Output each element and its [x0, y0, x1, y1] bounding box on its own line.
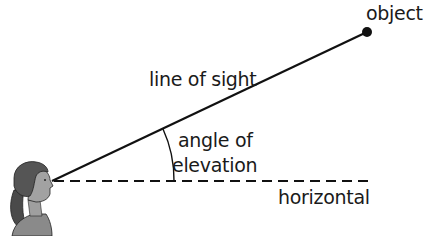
observer-person-icon [11, 162, 53, 236]
object-label: object [366, 4, 423, 23]
horizontal-label: horizontal [278, 188, 370, 207]
angle-label-line2: elevation [172, 156, 257, 175]
angle-label-line1: angle of [178, 131, 253, 150]
line-of-sight-label: line of sight [149, 70, 257, 89]
object-point [362, 27, 372, 37]
